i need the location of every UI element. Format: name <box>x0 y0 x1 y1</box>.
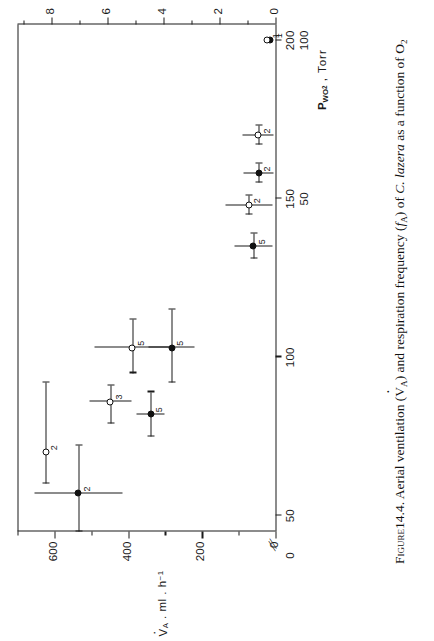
sample-size-label: 1 <box>270 33 280 38</box>
sample-size-label: 5 <box>153 407 163 412</box>
x-axis-ticklabel-outer-150: 150 <box>283 186 295 210</box>
x-axis-tick-outer-50 <box>275 514 281 515</box>
error-bar-cap-left <box>255 181 262 182</box>
x-axis-ticklabel-outer-50: 50 <box>283 503 295 527</box>
error-bar-cap-left <box>245 213 252 214</box>
sample-size-label: 5 <box>256 239 266 244</box>
va-axis-ticklabel-400: 400 <box>120 541 132 573</box>
error-bar-cap-right <box>245 194 252 195</box>
caption-fa-sub: A <box>399 216 409 223</box>
caption-va-symbol: V <box>391 387 408 397</box>
error-bar-horizontal <box>45 382 46 483</box>
va-axis-ticklabel-600: 600 <box>46 541 58 573</box>
va-axis-title-exp: −1 <box>155 570 164 580</box>
va-axis-minortick-100 <box>238 531 239 535</box>
x-axis-ticklabel-outer-200: 200 <box>283 28 295 52</box>
caption-figure-word: Figure <box>392 529 407 564</box>
scatter-plot: 5010015020050100∕∕0PWO2 , Torr0200400600… <box>3 0 363 569</box>
va-axis-tick-0 <box>275 531 276 538</box>
va-axis-ticklabel-200: 200 <box>193 541 205 573</box>
fa-axis-ticklabel-6: 6 <box>99 0 111 14</box>
caption-fa-symbol: f <box>392 223 407 227</box>
error-bar-horizontal <box>78 445 79 531</box>
caption-part1: 14.4. Aerial ventilation ( <box>392 397 407 529</box>
fa-axis-ticklabel-0: 0 <box>267 0 279 14</box>
marker-filled-circle <box>74 489 81 496</box>
error-bar-cap-left <box>250 257 257 258</box>
error-bar-cap-right <box>42 381 49 382</box>
marker-open-circle <box>106 398 113 405</box>
sample-size-label: 2 <box>251 198 261 203</box>
sample-size-label: 5 <box>174 340 184 345</box>
fa-axis-ticklabel-2: 2 <box>211 0 223 14</box>
va-axis-tick-600 <box>54 531 55 538</box>
caption-species: C. lazera <box>392 144 407 194</box>
x-axis-ticklabel-inner-50: 50 <box>297 186 309 210</box>
figure-caption-text: Figure14.4. Aerial ventilation (VA) and … <box>391 4 431 564</box>
error-bar-cap-left <box>147 435 154 436</box>
error-bar-cap-left <box>255 143 262 144</box>
va-axis-title-v: V <box>156 628 168 636</box>
error-bar-cap-right <box>168 308 175 309</box>
va-axis-line <box>17 530 275 531</box>
va-axis-tick-200 <box>201 531 202 538</box>
figure-caption: Figure14.4. Aerial ventilation (VA) and … <box>390 0 432 569</box>
error-bar-cap-right <box>250 232 257 233</box>
x-axis-title-units: , Torr <box>315 49 327 85</box>
x-axis-tick-outer-100 <box>275 355 281 356</box>
caption-va-sub: A <box>399 380 409 387</box>
error-bar-cap-right <box>255 162 262 163</box>
fa-axis-line <box>17 24 18 531</box>
caption-part4: as a function of O <box>392 44 407 144</box>
fa-axis-spine <box>17 23 275 24</box>
x-axis-zero-label: 0 <box>283 545 295 565</box>
va-axis-ticklabel-0: 0 <box>267 541 279 573</box>
va-axis-title: VA . ml . h−1 <box>155 553 170 641</box>
x-axis-title-p: P <box>315 102 327 110</box>
plot-stage: 5010015020050100∕∕0PWO2 , Torr0200400600… <box>3 0 363 569</box>
va-axis-title-units: . ml . h <box>156 580 168 622</box>
va-axis-tick-400 <box>128 531 129 538</box>
error-bar-cap-right <box>147 390 154 391</box>
sample-size-label: 2 <box>261 166 271 171</box>
caption-part2: ) and respiration frequency ( <box>392 227 407 381</box>
fa-axis-ticklabel-8: 8 <box>43 0 55 14</box>
marker-filled-circle <box>147 410 154 417</box>
sample-size-label: 3 <box>113 394 123 399</box>
caption-o2-sub: 2 <box>399 39 409 44</box>
error-bar-cap-left <box>168 381 175 382</box>
error-bar-cap-right <box>255 124 262 125</box>
va-axis-title-sub: A <box>161 622 170 628</box>
marker-open-circle <box>128 344 135 351</box>
va-axis-minortick-300 <box>164 531 165 535</box>
error-bar-cap-left <box>42 482 49 483</box>
caption-part3: ) of <box>392 194 407 217</box>
error-bar-cap-right <box>129 318 136 319</box>
x-axis-title: PWO2 , Torr <box>315 49 329 110</box>
error-bar-cap-right <box>107 384 114 385</box>
x-axis-tick-outer-150 <box>275 197 281 198</box>
error-bar-cap-left <box>129 371 136 372</box>
x-axis-ticklabel-inner-100: 100 <box>297 28 309 52</box>
x-axis-line <box>275 24 276 531</box>
error-bar-cap-right <box>75 444 82 445</box>
fa-axis-ticklabel-4: 4 <box>155 0 167 14</box>
sample-size-label: 2 <box>81 486 91 491</box>
va-axis-minortick-500 <box>91 531 92 535</box>
sample-size-label: 2 <box>48 445 58 450</box>
va-axis-minortick-700 <box>17 531 18 535</box>
marker-filled-circle <box>249 242 256 249</box>
x-axis-tick-outer-200 <box>275 39 281 40</box>
marker-open-circle <box>254 131 261 138</box>
marker-filled-circle <box>255 169 262 176</box>
sample-size-label: 2 <box>261 128 271 133</box>
marker-open-circle <box>245 201 252 208</box>
x-axis-ticklabel-outer-100: 100 <box>283 345 295 369</box>
marker-open-circle <box>42 448 49 455</box>
error-bar-cap-left <box>107 422 114 423</box>
error-bar-cap-left <box>75 530 82 531</box>
sample-size-label: 5 <box>135 340 145 345</box>
x-axis-title-sub-wo: WO <box>320 88 329 101</box>
marker-open-circle <box>263 36 270 43</box>
